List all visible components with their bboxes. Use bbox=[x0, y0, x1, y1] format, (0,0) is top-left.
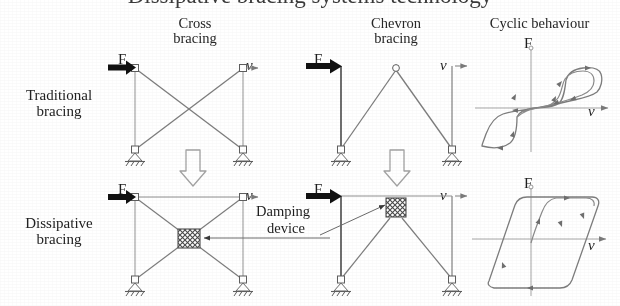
support-pinned-left bbox=[125, 276, 145, 296]
brace-leg-right bbox=[402, 218, 452, 279]
load-arrow-F bbox=[306, 189, 342, 203]
brace-diagonal-bottom-right bbox=[198, 246, 242, 279]
hinge-node-top-right bbox=[240, 65, 247, 72]
support-pinned-right bbox=[233, 146, 253, 166]
load-arrow-F bbox=[108, 190, 136, 204]
brace-diagonal-top-left bbox=[136, 198, 180, 231]
load-arrow-F bbox=[306, 59, 342, 73]
frame-dissipative-cross bbox=[108, 190, 330, 296]
support-pinned-right bbox=[233, 276, 253, 296]
damping-device-block bbox=[386, 198, 406, 217]
frame-traditional-chevron bbox=[306, 59, 467, 166]
support-pinned-left bbox=[331, 146, 351, 166]
support-pinned-right bbox=[442, 276, 462, 296]
support-pinned-left bbox=[125, 146, 145, 166]
brace-leg-right bbox=[396, 70, 452, 149]
brace-diagonal-bottom-left bbox=[136, 246, 180, 279]
transition-arrow-cross bbox=[180, 150, 206, 186]
chart-series-loop-outer bbox=[488, 197, 599, 288]
damping-device-block bbox=[178, 229, 200, 248]
hinge-node-top-right bbox=[240, 194, 247, 201]
brace-diagonal-top-right bbox=[198, 198, 242, 231]
chart-axis-y-cap bbox=[529, 46, 533, 50]
chart-series-cycle-inner bbox=[517, 71, 594, 117]
chart-series-loop-inner bbox=[531, 198, 594, 243]
brace-leg-left bbox=[341, 70, 396, 149]
chart-hysteresis-dissipative bbox=[472, 185, 606, 296]
diagram-canvas: Dissipative bracing systems technology C… bbox=[0, 0, 620, 306]
leader-line-damping-device-chevron bbox=[320, 205, 385, 235]
load-arrow-F bbox=[108, 61, 136, 75]
frame-dissipative-chevron bbox=[306, 189, 467, 296]
support-pinned-right bbox=[442, 146, 462, 166]
hinge-node-apex bbox=[393, 65, 400, 72]
transition-arrow-chevron bbox=[384, 150, 410, 186]
support-pinned-left bbox=[331, 276, 351, 296]
brace-leg-left bbox=[341, 218, 390, 279]
diagram-vector-layer bbox=[0, 0, 620, 306]
chart-hysteresis-traditional bbox=[475, 46, 608, 152]
frame-traditional-cross bbox=[108, 61, 258, 167]
